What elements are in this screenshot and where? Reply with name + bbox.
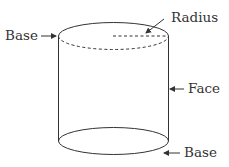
face-label: Face [188, 80, 220, 96]
bottom-base-label: Base [184, 144, 217, 160]
top-base-label: Base [5, 27, 38, 43]
top-base-ellipse-front [59, 36, 169, 50]
top-base-ellipse-back [59, 23, 169, 36]
cylinder-diagram: Base Radius Face Base [0, 0, 229, 167]
bottom-base-ellipse [59, 128, 169, 155]
radius-label: Radius [171, 9, 218, 25]
